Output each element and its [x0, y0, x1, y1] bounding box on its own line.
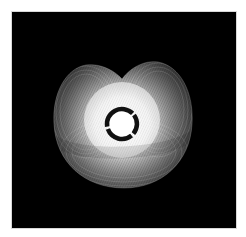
artwork-canvas [12, 12, 236, 228]
spirograph-artwork [12, 12, 236, 228]
